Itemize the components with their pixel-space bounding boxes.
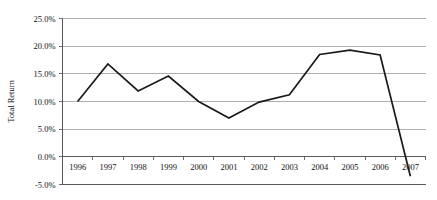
x-tick-label: 2005 — [341, 162, 358, 172]
y-axis-title: Total Return — [6, 79, 16, 122]
y-tick-label: 0.0% — [38, 152, 56, 162]
x-tick-label: 2000 — [190, 162, 207, 172]
x-tick-label: 1997 — [99, 162, 116, 172]
x-tick-label: 1998 — [130, 162, 147, 172]
x-tick-label: 1999 — [160, 162, 177, 172]
x-tick-label: 2006 — [372, 162, 389, 172]
y-tick-label: 25.0% — [34, 14, 56, 24]
x-tick-label: 2007 — [402, 162, 419, 172]
y-tick-label: 15.0% — [34, 69, 56, 79]
y-tick-label: 10.0% — [34, 97, 56, 107]
line-chart: 25.0%20.0%15.0%10.0%5.0%0.0%-5.0% 199619… — [0, 0, 437, 200]
y-tick-label: -5.0% — [35, 180, 56, 190]
x-tick-label: 2001 — [220, 162, 237, 172]
x-tick-label: 2004 — [311, 162, 329, 172]
y-tick-label: 5.0% — [38, 124, 56, 134]
y-tick-label: 20.0% — [34, 41, 56, 51]
x-tick-label: 2002 — [251, 162, 268, 172]
x-tick-label: 1996 — [69, 162, 86, 172]
chart-figure: 25.0%20.0%15.0%10.0%5.0%0.0%-5.0% 199619… — [0, 0, 437, 200]
x-tick-label: 2003 — [281, 162, 298, 172]
